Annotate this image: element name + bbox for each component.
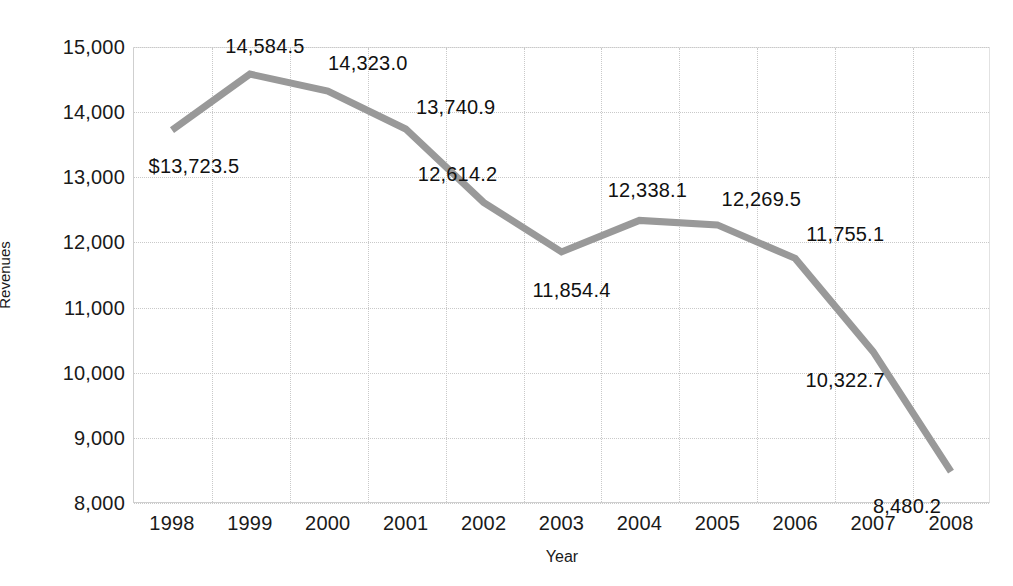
data-value-label: 14,584.5 (225, 35, 304, 58)
gridline-vertical (913, 48, 914, 502)
gridline-horizontal (134, 503, 989, 504)
data-value-label: 10,322.7 (805, 368, 884, 391)
gridline-vertical (757, 48, 758, 502)
gridline-vertical (679, 48, 680, 502)
gridline-vertical (212, 48, 213, 502)
y-axis-tick-label: 14,000 (63, 101, 125, 124)
x-axis-tick-label: 2000 (305, 512, 350, 535)
data-value-label: 12,614.2 (418, 163, 497, 186)
gridline-horizontal (134, 177, 989, 178)
gridline-vertical (290, 48, 291, 502)
x-axis-tick-label: 1999 (227, 512, 272, 535)
data-value-label: 11,755.1 (806, 223, 884, 246)
x-axis-tick-label: 2001 (383, 512, 428, 535)
gridline-vertical (835, 48, 836, 502)
y-axis-tick-label: 10,000 (63, 361, 125, 384)
x-axis-tick-label: 2006 (773, 512, 818, 535)
y-axis-tick-labels: 15,00014,00013,00012,00011,00010,0009,00… (0, 0, 125, 586)
data-value-label: 11,854.4 (533, 278, 611, 301)
x-axis-tick-label: 2004 (617, 512, 662, 535)
x-axis-title: Year (546, 548, 578, 566)
data-value-label: 8,480.2 (873, 494, 941, 517)
gridline-vertical (368, 48, 369, 502)
data-value-label: $13,723.5 (149, 155, 240, 178)
x-axis-tick-label: 2003 (539, 512, 584, 535)
x-axis-tick-label: 2005 (695, 512, 740, 535)
gridline-vertical (524, 48, 525, 502)
y-axis-tick-label: 9,000 (74, 426, 125, 449)
data-value-label: 14,323.0 (328, 52, 407, 75)
data-value-label: 12,269.5 (722, 187, 801, 210)
y-axis-tick-label: 15,000 (63, 36, 125, 59)
x-axis-tick-label: 2002 (461, 512, 506, 535)
data-value-label: 13,740.9 (416, 96, 495, 119)
y-axis-tick-label: 8,000 (74, 492, 125, 515)
x-axis-tick-label: 1998 (149, 512, 194, 535)
gridline-horizontal (134, 308, 989, 309)
y-axis-tick-label: 12,000 (63, 231, 125, 254)
data-value-label: 12,338.1 (608, 179, 687, 202)
gridline-vertical (601, 48, 602, 502)
plot-area (133, 47, 990, 503)
y-axis-tick-label: 13,000 (63, 166, 125, 189)
revenues-line-chart: Revenues 15,00014,00013,00012,00011,0001… (0, 0, 1013, 586)
gridline-horizontal (134, 438, 989, 439)
gridline-horizontal (134, 112, 989, 113)
y-axis-tick-label: 11,000 (64, 296, 125, 319)
